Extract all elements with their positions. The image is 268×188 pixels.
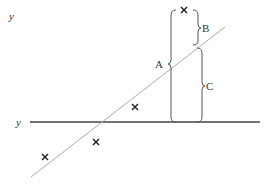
label-a: A — [155, 58, 163, 70]
mean-line-label: y — [15, 116, 21, 128]
brace-c — [197, 48, 205, 122]
data-points — [42, 7, 187, 160]
regression-deviation-diagram: y y A B C — [0, 0, 268, 188]
label-b: B — [202, 22, 209, 34]
label-c: C — [206, 80, 213, 92]
data-point — [181, 7, 187, 13]
data-point — [132, 104, 138, 110]
brace-b — [193, 10, 201, 45]
data-point — [93, 139, 99, 145]
data-point — [42, 154, 48, 160]
regression-line — [31, 27, 225, 177]
y-axis-label: y — [8, 10, 14, 22]
